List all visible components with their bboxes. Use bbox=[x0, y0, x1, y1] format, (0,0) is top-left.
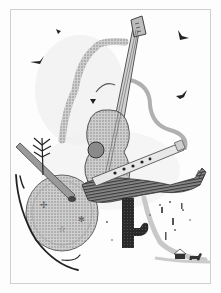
artwork-canvas: ✢ ☆ ✻ bbox=[0, 0, 221, 293]
svg-text:✢: ✢ bbox=[40, 200, 48, 210]
svg-text:✻: ✻ bbox=[78, 215, 85, 224]
artwork-illustration: ✢ ☆ ✻ bbox=[0, 0, 221, 293]
bird-icon bbox=[176, 90, 187, 99]
bird-icon bbox=[56, 29, 61, 34]
svg-text:☆: ☆ bbox=[58, 224, 66, 234]
ribbon-tail bbox=[144, 198, 205, 260]
bird-icon bbox=[178, 30, 189, 40]
